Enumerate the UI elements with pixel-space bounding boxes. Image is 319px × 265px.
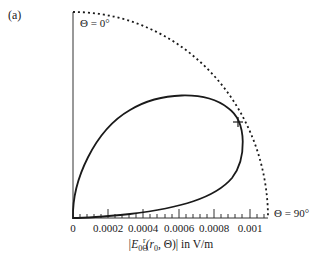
theta-90-annotation: Θ = 90° <box>274 207 309 219</box>
x-tick-label: 0.0006 <box>164 222 194 234</box>
x-tick-label: 0 <box>70 222 76 234</box>
polar-plot <box>0 0 319 265</box>
x-tick-label: 0.0004 <box>128 222 158 234</box>
reference-arc <box>73 12 268 218</box>
x-tick-label: 0.0002 <box>93 222 123 234</box>
field-loop <box>73 95 243 218</box>
x-tick-label: 0.0008 <box>199 222 229 234</box>
x-tick-label: 0.001 <box>238 222 263 234</box>
x-axis-label: |E0Θr(r0, Θ)| in V/m <box>128 236 213 253</box>
theta-0-annotation: Θ = 0° <box>80 17 110 29</box>
crosshair-marker <box>233 117 243 127</box>
